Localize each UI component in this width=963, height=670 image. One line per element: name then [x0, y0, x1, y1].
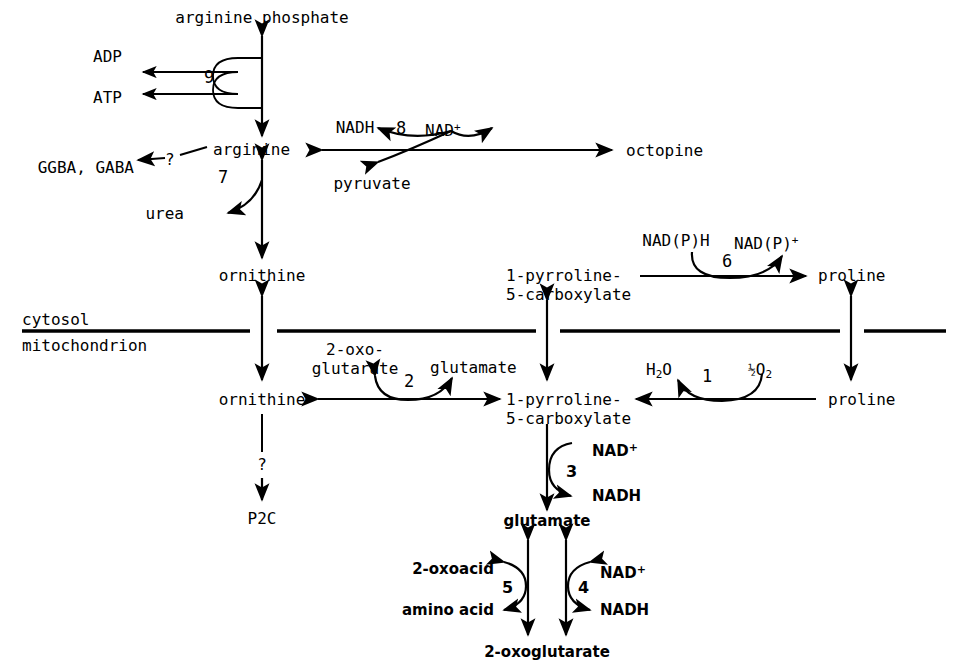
- arrow-reaction6-cofactors: [692, 252, 782, 278]
- label-2-oxoglutarate-reaction2: 2-oxo-glutarate: [312, 340, 399, 378]
- label-p5c-cytosol-line2: 5-carboxylate: [506, 285, 631, 304]
- label-nadp-plus-reaction6: NAD(P)+: [734, 231, 798, 253]
- label-2-oxoacid: 2-oxoacid: [412, 560, 494, 579]
- label-nad-plus-reaction3: NAD+: [592, 438, 638, 461]
- label-half-oxygen-subscript: 2: [765, 368, 772, 381]
- label-glutamate-reaction2: glutamate: [430, 358, 517, 377]
- enzyme-label-2: 2: [404, 372, 414, 391]
- label-p2c: P2C: [248, 509, 277, 528]
- label-ornithine-cytosol: ornithine: [219, 266, 306, 285]
- label-ornithine-mitochondrion: ornithine: [219, 390, 306, 409]
- label-water-oxygen: O: [662, 360, 672, 379]
- enzyme-label-8: 8: [396, 119, 406, 138]
- label-adp: ADP: [93, 47, 122, 66]
- label-urea: urea: [145, 204, 184, 223]
- label-2-oxoglutarate-reaction2-line1: 2-oxo-: [326, 340, 384, 359]
- arrow-reaction9-adp: [143, 58, 262, 94]
- label-p5c-cytosol: 1-pyrroline-5-carboxylate: [506, 266, 631, 304]
- label-nadp-plus-reaction6-text: NAD(P): [734, 234, 792, 253]
- label-p5c-mitochondrion-line1: 1-pyrroline-: [506, 390, 622, 409]
- label-p5c-cytosol-line1: 1-pyrroline-: [506, 266, 622, 285]
- label-unknown-ornithine-p2c: ?: [257, 455, 267, 474]
- enzyme-label-6: 6: [722, 252, 732, 271]
- arrow-reaction9-atp: [143, 72, 262, 108]
- enzyme-label-5: 5: [502, 578, 513, 597]
- label-water-reaction1: H2O: [646, 360, 672, 384]
- label-ggba-gaba: GGBA, GABA: [38, 158, 134, 177]
- enzyme-label-1: 1: [702, 367, 712, 386]
- label-water-element: H: [646, 360, 656, 379]
- label-nad-plus-reaction3-superscript: +: [629, 441, 638, 454]
- label-nadh-reaction8: NADH: [336, 118, 375, 137]
- pathway-diagram: arginine phosphate ADP ATP 9 arginine GG…: [0, 0, 963, 670]
- label-unknown-arginine-ggba: ?: [165, 150, 175, 169]
- enzyme-label-4: 4: [578, 578, 589, 597]
- enzyme-label-7: 7: [218, 168, 228, 187]
- label-octopine: octopine: [626, 141, 703, 160]
- label-nad-plus-reaction4: NAD+: [600, 560, 646, 583]
- label-nadh-reaction4: NADH: [600, 601, 649, 620]
- enzyme-label-3: 3: [566, 462, 577, 481]
- label-2-oxoglutarate-reaction2-line2: glutarate: [312, 359, 399, 378]
- label-nadh-reaction3: NADH: [592, 487, 641, 506]
- label-half-oxygen-fraction: ½: [748, 362, 756, 377]
- label-nad-plus-reaction4-text: NAD: [600, 564, 637, 582]
- label-nad-plus-reaction4-superscript: +: [637, 563, 646, 576]
- label-proline-cytosol: proline: [818, 266, 885, 285]
- label-glutamate-bottom: glutamate: [504, 512, 591, 531]
- label-nadph-reaction6: NAD(P)H: [642, 231, 709, 250]
- enzyme-label-9: 9: [204, 68, 214, 87]
- label-pyruvate: pyruvate: [333, 174, 410, 193]
- label-2-oxoglutarate-bottom: 2-oxoglutarate: [484, 643, 610, 662]
- arrow-reaction7-urea: [228, 180, 262, 213]
- label-proline-mitochondrion: proline: [828, 390, 895, 409]
- label-compartment-cytosol: cytosol: [22, 310, 89, 329]
- label-atp: ATP: [93, 88, 122, 107]
- label-p5c-mitochondrion: 1-pyrroline-5-carboxylate: [506, 390, 631, 428]
- label-nad-plus-reaction3-text: NAD: [592, 442, 629, 460]
- label-compartment-mitochondrion: mitochondrion: [22, 336, 147, 355]
- label-p5c-mitochondrion-line2: 5-carboxylate: [506, 409, 631, 428]
- label-nadp-plus-reaction6-superscript: +: [792, 234, 799, 247]
- label-nad-plus-reaction8-superscript: +: [454, 121, 461, 134]
- label-arginine: arginine: [213, 140, 290, 159]
- label-nad-plus-reaction8-text: NAD: [425, 121, 454, 140]
- label-amino-acid: amino acid: [402, 601, 494, 620]
- label-nad-plus-reaction8: NAD+: [425, 118, 461, 140]
- label-half-oxygen-reaction1: ½O2: [748, 360, 772, 384]
- label-arginine-phosphate: arginine phosphate: [175, 8, 348, 27]
